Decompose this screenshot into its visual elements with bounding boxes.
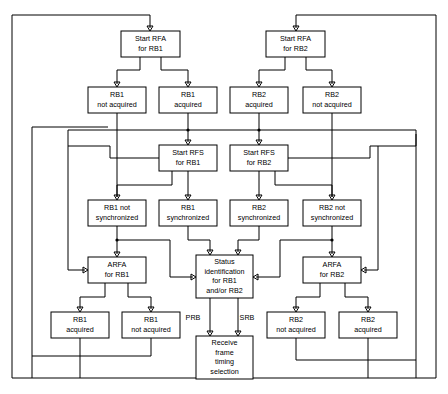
node-label-line: acquired xyxy=(354,325,382,334)
node-label-line: synchronized xyxy=(238,213,280,222)
node-label-line: for RB1 xyxy=(212,276,236,285)
node-label-line: Start RFA xyxy=(280,34,311,43)
node-label-line: RB2 xyxy=(361,315,375,324)
flowchart-nodes: Start RFAfor RB1Start RFAfor RB2RB1not a… xyxy=(51,31,397,379)
node-label-line: RB2 xyxy=(252,203,266,212)
flow-node-arfa_rb1: ARFAfor RB1 xyxy=(88,257,146,283)
node-label-line: Status xyxy=(214,257,235,266)
node-label-line: synchronized xyxy=(167,213,209,222)
node-label-line: for RB1 xyxy=(105,270,129,279)
node-label-line: for RB1 xyxy=(138,44,162,53)
node-label-line: acquired xyxy=(66,325,94,334)
node-label-line: selection xyxy=(210,367,238,376)
flowchart-edge-labels: PRBSRB xyxy=(186,313,255,322)
node-label-line: RB1 xyxy=(181,90,195,99)
flow-node-rb1_sync: RB1synchronized xyxy=(159,200,217,226)
node-label-line: Start RFS xyxy=(243,148,275,157)
node-label-line: RB2 xyxy=(325,90,339,99)
node-label-line: frame xyxy=(215,348,233,357)
node-label-line: RB1 xyxy=(181,203,195,212)
node-label-line: RB1 not xyxy=(104,203,130,212)
node-label-line: acquired xyxy=(174,100,202,109)
node-label-line: Receive xyxy=(212,338,238,347)
node-label-line: not acquired xyxy=(131,325,171,334)
node-label-line: for RB2 xyxy=(320,270,344,279)
flow-node-rb2_not_sync: RB2 notsynchronized xyxy=(303,200,361,226)
node-label-line: RB2 xyxy=(252,90,266,99)
flowchart-page: Start RFAfor RB1Start RFAfor RB2RB1not a… xyxy=(0,0,448,394)
flow-node-rb2_not_acquired_bottom: RB2not acquired xyxy=(267,312,325,338)
flow-node-rb1_acquired_top: RB1acquired xyxy=(159,87,217,113)
node-label-line: RB1 xyxy=(144,315,158,324)
node-label-line: not acquired xyxy=(312,100,352,109)
node-label-line: not acquired xyxy=(97,100,137,109)
node-label-line: Start RFA xyxy=(135,34,166,43)
flow-node-rb1_acquired_bottom: RB1acquired xyxy=(51,312,109,338)
flow-node-rb1_not_acquired_top: RB1not acquired xyxy=(88,87,146,113)
node-label-line: for RB2 xyxy=(247,158,271,167)
flow-node-rb1_not_sync: RB1 notsynchronized xyxy=(88,200,146,226)
node-label-line: RB1 xyxy=(110,90,124,99)
node-label-line: for RB1 xyxy=(176,158,200,167)
edge-label-prb: PRB xyxy=(186,313,201,322)
flow-node-start_rfs_rb2: Start RFSfor RB2 xyxy=(230,145,288,171)
node-label-line: ARFA xyxy=(108,260,127,269)
flow-node-rb2_acquired_bottom: RB2acquired xyxy=(339,312,397,338)
flow-node-rb2_acquired_top: RB2acquired xyxy=(230,87,288,113)
flow-node-rb1_not_acquired_bottom: RB1not acquired xyxy=(122,312,180,338)
node-label-line: RB1 xyxy=(73,315,87,324)
flow-node-arfa_rb2: ARFAfor RB2 xyxy=(303,257,361,283)
node-label-line: acquired xyxy=(245,100,273,109)
node-label-line: identification xyxy=(205,267,245,276)
node-label-line: timing xyxy=(215,357,234,366)
node-label-line: Start RFS xyxy=(172,148,204,157)
node-label-line: synchronized xyxy=(96,213,138,222)
flow-node-status_identification: Statusidentificationfor RB1and/or RB2 xyxy=(196,255,253,298)
flow-node-receive_frame_timing: Receiveframetimingselection xyxy=(196,336,253,379)
flow-node-start_rfa_rb1: Start RFAfor RB1 xyxy=(121,31,180,57)
node-label-line: for RB2 xyxy=(283,44,307,53)
node-label-line: RB2 not xyxy=(319,203,345,212)
node-label-line: RB2 xyxy=(289,315,303,324)
edge-label-srb: SRB xyxy=(240,313,255,322)
node-label-line: ARFA xyxy=(323,260,342,269)
flow-node-rb2_not_acquired_top: RB2not acquired xyxy=(303,87,361,113)
node-label-line: synchronized xyxy=(311,213,353,222)
flow-node-start_rfs_rb1: Start RFSfor RB1 xyxy=(159,145,217,171)
flow-node-rb2_sync: RB2synchronized xyxy=(230,200,288,226)
flowchart-diagram: Start RFAfor RB1Start RFAfor RB2RB1not a… xyxy=(0,0,448,394)
flow-node-start_rfa_rb2: Start RFAfor RB2 xyxy=(266,31,325,57)
node-label-line: and/or RB2 xyxy=(206,286,242,295)
node-label-line: not acquired xyxy=(276,325,316,334)
